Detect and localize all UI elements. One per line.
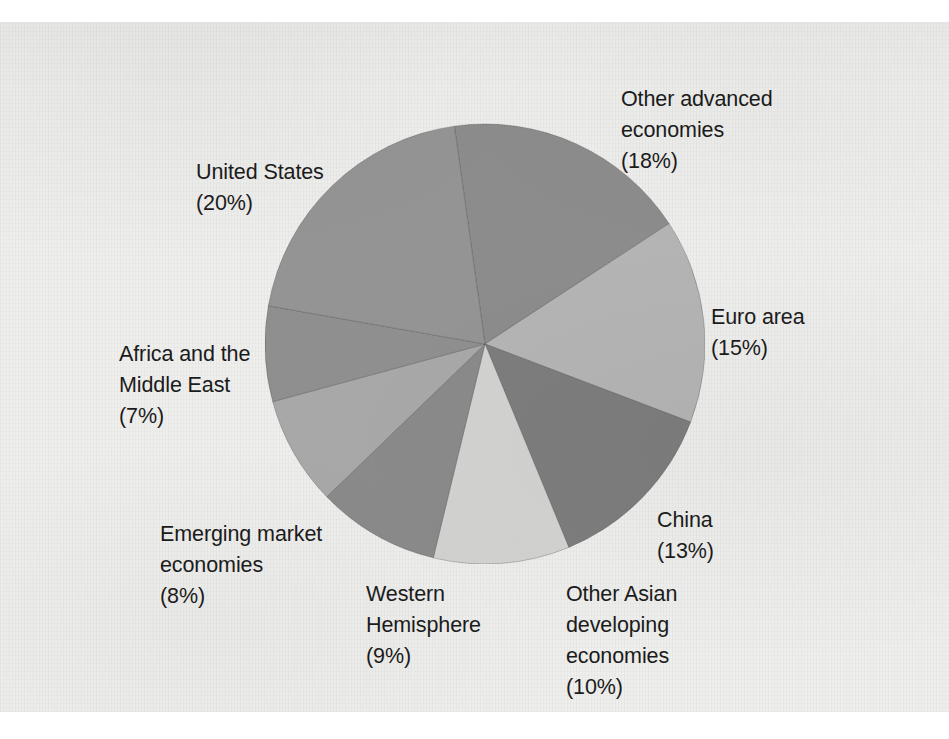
figure-canvas: Other advanced economies (18%) Euro area… <box>0 22 949 712</box>
scanned-page: Other advanced economies (18%) Euro area… <box>0 0 949 739</box>
slice-label-africa-and-the-middle-east: Africa and the Middle East (7%) <box>119 339 250 432</box>
slice-label-united-states: United States (20%) <box>196 157 324 219</box>
slice-label-western-hemisphere: Western Hemisphere (9%) <box>366 579 481 672</box>
pie-slice-group <box>265 124 705 564</box>
slice-label-emerging-market-economies: Emerging market economies (8%) <box>160 519 322 612</box>
slice-label-china: China (13%) <box>657 505 714 567</box>
pie-chart-svg <box>265 120 705 564</box>
slice-label-other-asian-developing-economies: Other Asian developing economies (10%) <box>566 579 677 703</box>
pie-chart <box>265 120 705 564</box>
slice-label-euro-area: Euro area (15%) <box>711 302 805 364</box>
slice-label-other-advanced-economies: Other advanced economies (18%) <box>621 84 773 177</box>
